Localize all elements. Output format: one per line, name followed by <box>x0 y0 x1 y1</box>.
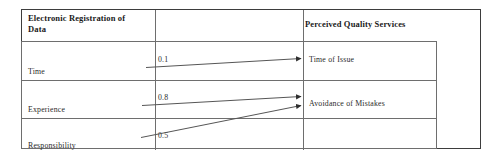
header-left-title-line1: Electronic Registration of <box>28 13 125 23</box>
predictor-label-time: Time <box>28 67 45 76</box>
inner-table-grid: Time Experience Responsibility Time of I… <box>21 41 437 149</box>
column-divider-1 <box>155 10 156 150</box>
row-divider-1 <box>22 80 436 81</box>
path-coefficient-time-to-time-of-issue: 0.1 <box>158 55 168 64</box>
outcome-label-avoidance-of-mistakes: Avoidance of Mistakes <box>309 99 385 108</box>
predictor-label-responsibility: Responsibility <box>28 141 76 150</box>
path-coefficient-experience-to-avoidance: 0.8 <box>158 93 168 102</box>
outcome-label-time-of-issue: Time of Issue <box>309 55 354 64</box>
header-left-title-line2: Data <box>28 24 46 34</box>
header-left-title: Electronic Registration ofData <box>28 13 228 34</box>
path-coefficient-responsibility-to-avoidance: 0.5 <box>158 131 168 140</box>
path-diagram: Electronic Registration ofData Perceived… <box>0 0 494 158</box>
row-divider-2 <box>22 118 436 119</box>
predictor-label-experience: Experience <box>28 105 65 114</box>
column-divider-2 <box>303 10 304 150</box>
header-right-title: Perceived Quality Services <box>305 19 494 30</box>
header-band: Electronic Registration ofData Perceived… <box>22 10 480 41</box>
